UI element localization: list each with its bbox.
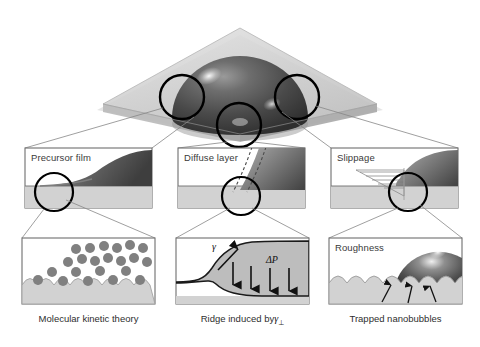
panel-label-slippage: Slippage xyxy=(337,152,375,163)
caption-ridge-perp: ⊥ xyxy=(278,319,284,326)
droplet-base-glint xyxy=(232,118,248,126)
caption-molecular-kinetic-theory: Molecular kinetic theory xyxy=(22,313,155,324)
panel-label-roughness: Roughness xyxy=(335,242,384,253)
caption-trapped-nanobubbles: Trapped nanobubbles xyxy=(329,313,462,324)
ridge-substrate-band xyxy=(176,296,309,304)
panel-label-diffuse-layer: Diffuse layer xyxy=(184,152,238,163)
symbol-delta-pressure: ΔP xyxy=(266,254,278,265)
substrate-band-left xyxy=(25,186,152,208)
panel-ridge xyxy=(176,238,309,304)
overview-scene xyxy=(97,28,383,147)
symbol-surface-tension-gamma: γ xyxy=(212,241,216,252)
caption-ridge-text: Ridge induced by xyxy=(201,313,274,324)
wetting-mechanisms-figure xyxy=(0,0,480,347)
panel-molecular-kinetic-theory xyxy=(22,238,155,304)
caption-ridge-induced: Ridge induced byγ⊥ xyxy=(176,313,309,327)
panel-label-precursor-film: Precursor film xyxy=(31,152,91,163)
